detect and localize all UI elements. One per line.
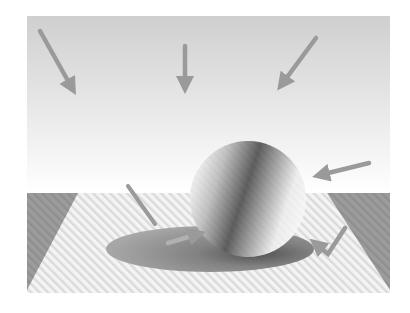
- sphere-texture: [190, 141, 306, 257]
- lighting-diagram: [0, 0, 410, 313]
